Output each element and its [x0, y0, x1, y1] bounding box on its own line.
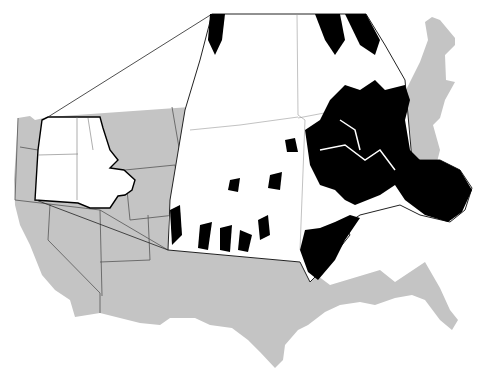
us-map-figure [0, 0, 491, 384]
